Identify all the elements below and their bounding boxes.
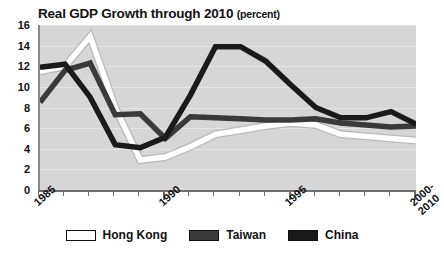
x-axis-minor-tick xyxy=(389,192,390,196)
chart-title: Real GDP Growth through 2010 (percent) xyxy=(38,6,280,21)
x-axis-minor-tick xyxy=(314,192,315,196)
legend-label: Hong Kong xyxy=(103,228,168,242)
legend-swatch xyxy=(66,230,96,241)
y-axis-tick-label: 2 xyxy=(24,164,30,175)
series-line xyxy=(40,36,416,160)
x-axis-minor-tick xyxy=(188,192,189,196)
y-axis-tick-label: 12 xyxy=(18,61,30,72)
legend-item: Hong Kong xyxy=(66,228,168,242)
y-axis-tick-label: 8 xyxy=(24,102,30,113)
legend-swatch xyxy=(189,230,219,241)
x-axis-minor-tick xyxy=(63,192,64,196)
x-axis-minor-tick xyxy=(239,192,240,196)
legend-item: China xyxy=(288,228,358,242)
x-axis-minor-tick xyxy=(38,192,39,196)
x-axis-minor-tick xyxy=(339,192,340,196)
x-axis-minor-tick xyxy=(213,192,214,196)
x-axis-minor-tick xyxy=(264,192,265,196)
plot-area xyxy=(38,25,416,190)
legend-item: Taiwan xyxy=(189,228,266,242)
y-axis-tick-label: 0 xyxy=(24,185,30,196)
x-axis-major-tick xyxy=(414,192,416,200)
legend-swatch xyxy=(288,230,318,241)
x-axis-ticks xyxy=(38,192,414,200)
x-axis-minor-tick xyxy=(113,192,114,196)
x-axis-minor-tick xyxy=(138,192,139,196)
y-axis-tick-label: 4 xyxy=(24,143,30,154)
y-axis: 1614121086420 xyxy=(0,25,34,190)
y-axis-tick-label: 14 xyxy=(18,40,30,51)
series-lines xyxy=(40,25,416,190)
chart-legend: Hong KongTaiwanChina xyxy=(0,226,424,244)
legend-label: Taiwan xyxy=(226,228,266,242)
legend-label: China xyxy=(325,228,358,242)
y-axis-tick-label: 10 xyxy=(18,81,30,92)
x-axis-major-tick xyxy=(289,192,291,200)
x-axis-minor-tick xyxy=(364,192,365,196)
x-axis-minor-tick xyxy=(88,192,89,196)
y-axis-tick-label: 6 xyxy=(24,123,30,134)
series-line xyxy=(40,63,416,138)
chart-title-unit: (percent) xyxy=(237,8,280,20)
y-axis-tick-label: 16 xyxy=(18,20,30,31)
x-axis-major-tick xyxy=(163,192,165,200)
chart-title-text: Real GDP Growth through 2010 xyxy=(38,6,233,21)
